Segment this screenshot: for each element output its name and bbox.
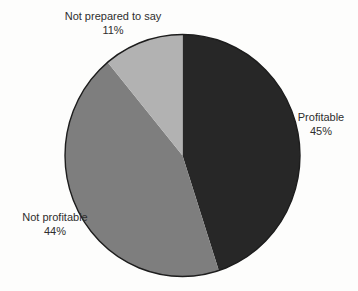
pie-label-not-prepared-to-say: Not prepared to say 11%	[65, 10, 162, 37]
slice-name: Profitable	[298, 111, 344, 125]
pie-slices	[65, 35, 300, 277]
pie-label-profitable: Profitable 45%	[298, 111, 344, 138]
slice-percent: 45%	[298, 125, 344, 139]
slice-name: Not prepared to say	[65, 10, 162, 24]
slice-percent: 11%	[65, 24, 162, 38]
pie-chart-figure: Not prepared to say 11% Profitable 45% N…	[0, 0, 358, 291]
pie-label-not-profitable: Not profitable 44%	[22, 211, 87, 238]
pie-chart	[0, 0, 358, 291]
slice-percent: 44%	[22, 225, 87, 239]
slice-name: Not profitable	[22, 211, 87, 225]
